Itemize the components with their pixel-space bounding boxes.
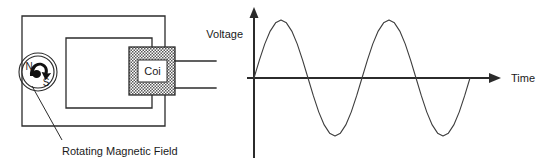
figure-canvas: N S Coi Rotating Magnetic Field (0, 0, 548, 167)
generator-caption: Rotating Magnetic Field (62, 145, 178, 157)
voltage-axis-arrow-icon (250, 7, 259, 18)
coil-label: Coi (144, 65, 161, 77)
waveform-plot: Voltage Time (206, 7, 535, 158)
caption-leader-line (32, 86, 62, 140)
time-axis-label: Time (511, 72, 535, 84)
generator-waveform-figure: N S Coi Rotating Magnetic Field (0, 0, 548, 167)
coil-assembly: Coi (129, 47, 216, 95)
voltage-axis-label: Voltage (206, 28, 243, 40)
generator-schematic: N S Coi Rotating Magnetic Field (19, 16, 216, 157)
south-pole-label: S (43, 77, 50, 88)
time-axis-arrow-icon (489, 73, 501, 83)
rotating-magnet: N S (19, 53, 57, 91)
north-pole-label: N (25, 61, 32, 72)
